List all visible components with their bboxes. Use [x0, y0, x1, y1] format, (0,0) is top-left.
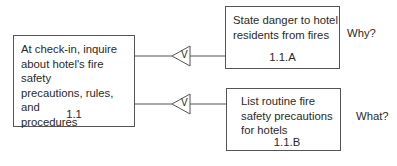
subtask-box-a: State danger to hotel residents from fir…: [225, 6, 340, 69]
main-task-box: At check-in, inquire about hotel's fire …: [13, 35, 135, 127]
connector-symbol-a: V: [181, 49, 188, 60]
connector-symbol-b: V: [181, 97, 188, 108]
main-task-id: 1.1: [14, 108, 134, 120]
subtask-a-id: 1.1.A: [226, 51, 339, 63]
subtask-box-b: List routine fire safety precautions for…: [226, 88, 341, 151]
subtask-b-question: What?: [356, 110, 389, 122]
subtask-a-text: State danger to hotel residents from fir…: [233, 13, 338, 42]
subtask-b-id: 1.1.B: [247, 136, 327, 148]
subtask-a-question: Why?: [347, 27, 376, 39]
subtask-b-text: List routine fire safety precautions for…: [241, 94, 333, 138]
